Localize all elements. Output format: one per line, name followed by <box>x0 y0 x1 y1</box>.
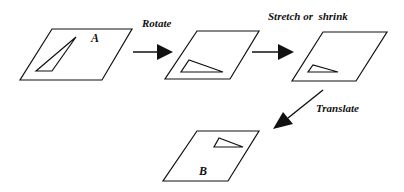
stretch-label: Stretch or shrink <box>268 10 348 22</box>
translate-arrow: Translate <box>273 90 359 129</box>
triangle-rotated <box>181 60 223 72</box>
panel-b: B <box>163 131 259 181</box>
translate-label: Translate <box>316 102 359 114</box>
triangle-b <box>214 138 243 147</box>
stretch-arrow: Stretch or shrink <box>252 10 348 60</box>
panel-b-label: B <box>198 164 207 178</box>
panel-scaled <box>292 32 387 81</box>
transformation-diagram: A Rotate Stretch or shrink Translate B <box>0 0 404 192</box>
panel-a-label: A <box>90 31 99 45</box>
triangle-scaled <box>308 65 338 72</box>
panel-rotated <box>165 31 259 79</box>
rotate-arrow: Rotate <box>133 17 173 60</box>
diagram-canvas: A Rotate Stretch or shrink Translate B <box>0 0 404 192</box>
triangle-a <box>36 37 76 71</box>
rotate-label: Rotate <box>141 17 171 29</box>
panel-a: A <box>20 29 132 80</box>
